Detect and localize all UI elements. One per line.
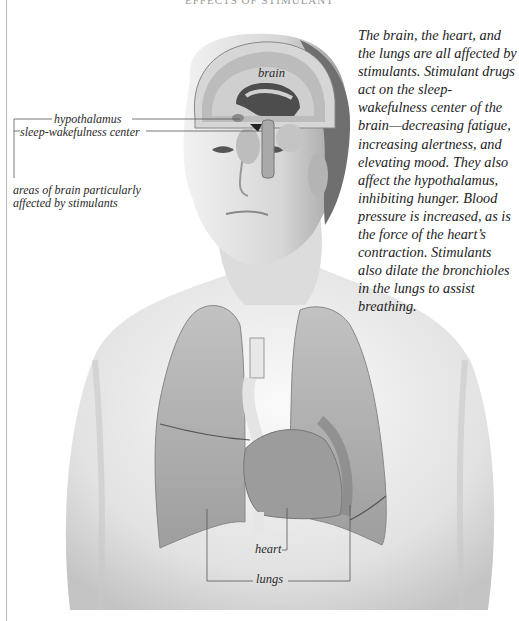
label-heart: heart: [255, 542, 281, 557]
description-text: The brain, the heart, and the lungs are …: [358, 26, 518, 316]
label-lungs: lungs: [256, 572, 283, 587]
label-sleep-wakefulness-center: sleep-wakefulness center: [20, 125, 140, 140]
label-brain: brain: [258, 66, 285, 81]
label-areas-affected: areas of brain particularly affected by …: [13, 184, 173, 210]
